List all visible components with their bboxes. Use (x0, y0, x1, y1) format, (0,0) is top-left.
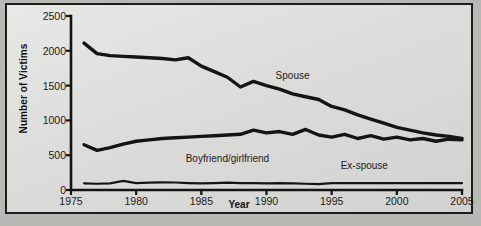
y-axis-ticks: 05001000150020002500 (20, 5, 66, 212)
series-line-0 (84, 43, 462, 138)
x-tick-label: 1990 (244, 195, 290, 207)
x-tick-label: 1985 (178, 195, 224, 207)
series-label-0: Spouse (276, 70, 310, 81)
x-tick-label: 2000 (374, 195, 420, 207)
plot-area: SpouseBoyfriend/girlfriendEx-spouse (7, 5, 471, 212)
chart-svg (7, 5, 475, 216)
series-line-2 (84, 181, 462, 184)
x-tick-label: 1975 (48, 195, 94, 207)
series-label-1: Boyfriend/girlfriend (186, 153, 269, 164)
chart-figure: SpouseBoyfriend/girlfriendEx-spouse Numb… (5, 3, 473, 214)
y-tick-label: 500 (20, 149, 66, 161)
series-line-1 (84, 129, 462, 150)
y-tick-label: 2500 (20, 10, 66, 22)
x-tick-label: 1980 (113, 195, 159, 207)
y-tick-label: 1000 (20, 114, 66, 126)
x-axis-ticks: 1975198019851990199520002005 (7, 195, 471, 211)
x-tick-label: 1995 (309, 195, 355, 207)
series-label-2: Ex-spouse (341, 160, 388, 171)
y-tick-label: 1500 (20, 80, 66, 92)
x-tick-label: 2005 (439, 195, 481, 207)
y-tick-label: 2000 (20, 45, 66, 57)
